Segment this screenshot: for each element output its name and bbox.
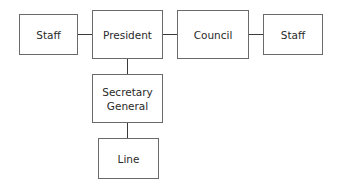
node-council: Council	[177, 10, 249, 59]
node-line: Line	[98, 138, 159, 179]
node-label: President	[103, 28, 152, 42]
connector-council-staff	[248, 34, 263, 35]
connector-staff-president	[77, 34, 92, 35]
node-label-line-1: Secretary	[102, 85, 153, 99]
node-label: Council	[194, 28, 233, 42]
node-staff-left: Staff	[19, 14, 78, 55]
node-label-line-2: General	[107, 99, 148, 113]
connector-secretary-line	[127, 122, 128, 138]
node-staff-right: Staff	[263, 14, 323, 55]
connector-president-council	[162, 34, 177, 35]
node-label: Staff	[281, 28, 305, 42]
node-label: Staff	[36, 28, 60, 42]
node-secretary-general: Secretary General	[92, 74, 163, 123]
connector-president-secretary	[127, 58, 128, 74]
node-label: Line	[118, 152, 140, 166]
node-president: President	[92, 10, 163, 59]
